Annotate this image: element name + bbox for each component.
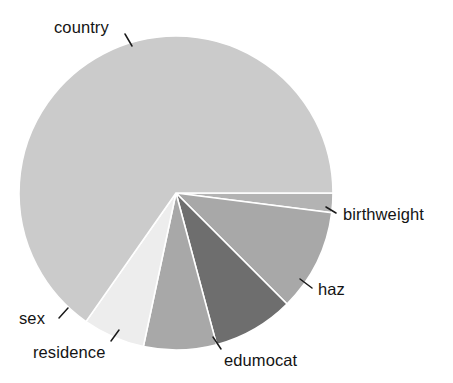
pie-slice-label-birthweight: birthweight xyxy=(343,206,424,223)
pie-slice-label-country: country xyxy=(54,19,109,36)
pie-slice-label-residence: residence xyxy=(33,344,105,361)
pie-slice-label-sex: sex xyxy=(19,310,45,327)
pie-slice-label-edumocat: edumocat xyxy=(224,352,297,369)
leader-line-sex xyxy=(59,308,68,318)
pie-slices-group xyxy=(19,36,333,350)
pie-slice-label-haz: haz xyxy=(318,281,345,298)
pie-chart-figure: country birthweight haz edumocat residen… xyxy=(0,0,453,383)
pie-chart-canvas xyxy=(0,0,453,383)
